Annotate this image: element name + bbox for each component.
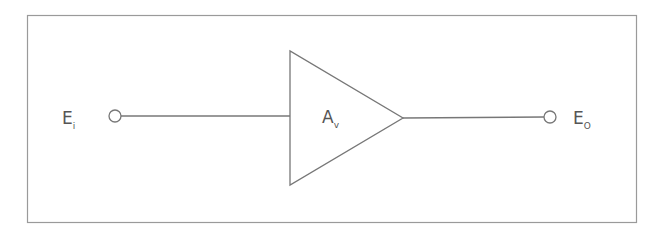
input-terminal-icon (109, 110, 121, 122)
amplifier-diagram: Ei Av EO (0, 0, 660, 238)
input-label: Ei (62, 108, 75, 131)
output-label: EO (573, 108, 591, 131)
amplifier-triangle-icon (290, 51, 403, 185)
output-terminal-icon (544, 111, 556, 123)
output-wire (403, 117, 544, 118)
